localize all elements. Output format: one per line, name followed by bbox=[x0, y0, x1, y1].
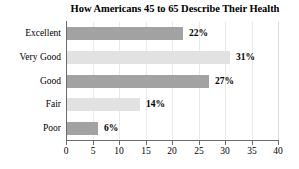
bar bbox=[66, 122, 98, 135]
x-axis-tick-label: 35 bbox=[240, 146, 264, 157]
x-axis-tick-label: 0 bbox=[54, 146, 78, 157]
bar bbox=[66, 98, 140, 111]
category-label: Poor bbox=[0, 123, 61, 134]
x-axis-tick-label: 5 bbox=[81, 146, 105, 157]
x-axis-tick-label: 15 bbox=[134, 146, 158, 157]
x-axis-tick-label: 25 bbox=[187, 146, 211, 157]
y-axis-line bbox=[66, 21, 67, 141]
category-label: Good bbox=[0, 76, 61, 87]
x-axis-line bbox=[66, 140, 279, 141]
gridline bbox=[252, 22, 253, 140]
chart-title: How Americans 45 to 65 Describe Their He… bbox=[55, 2, 295, 15]
bar-value-label: 14% bbox=[146, 99, 165, 110]
bar-chart: How Americans 45 to 65 Describe Their He… bbox=[0, 0, 299, 169]
x-axis-tick bbox=[66, 141, 67, 145]
x-axis-tick-label: 40 bbox=[266, 146, 290, 157]
x-axis-tick-label: 30 bbox=[213, 146, 237, 157]
x-axis-tick-label: 20 bbox=[160, 146, 184, 157]
category-label: Excellent bbox=[0, 28, 61, 39]
x-axis-tick bbox=[146, 141, 147, 145]
x-axis-tick bbox=[225, 141, 226, 145]
bar-value-label: 6% bbox=[104, 123, 118, 134]
bar bbox=[66, 75, 209, 88]
category-label: Very Good bbox=[0, 52, 61, 63]
bar-value-label: 27% bbox=[215, 76, 234, 87]
bar-value-label: 31% bbox=[236, 52, 255, 63]
x-axis-tick-label: 10 bbox=[107, 146, 131, 157]
x-axis-tick bbox=[199, 141, 200, 145]
x-axis-tick bbox=[172, 141, 173, 145]
x-axis-tick bbox=[252, 141, 253, 145]
x-axis-tick bbox=[119, 141, 120, 145]
category-label: Fair bbox=[0, 99, 61, 110]
bar bbox=[66, 51, 230, 64]
bar-value-label: 22% bbox=[189, 28, 208, 39]
gridline bbox=[278, 22, 279, 140]
bar bbox=[66, 27, 183, 40]
x-axis-tick bbox=[278, 141, 279, 145]
x-axis-tick bbox=[93, 141, 94, 145]
